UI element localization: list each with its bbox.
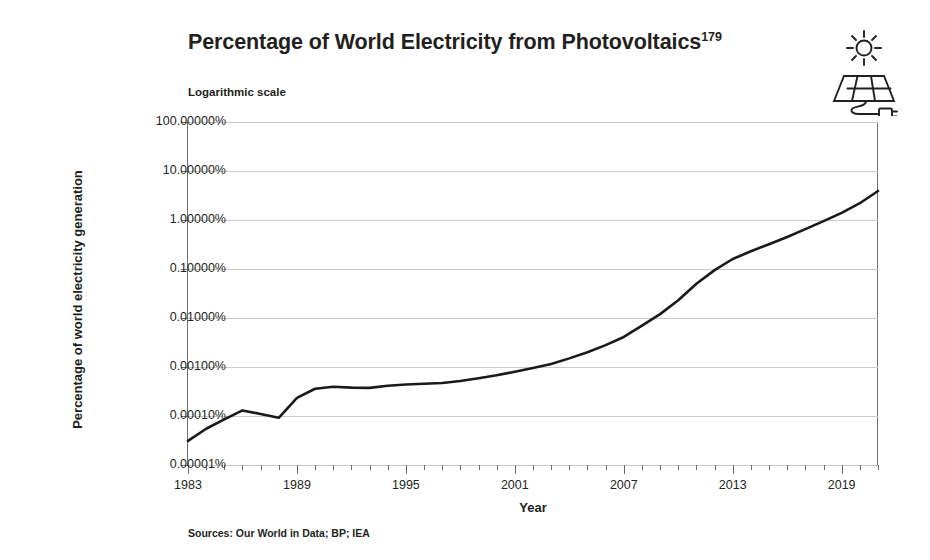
y-axis-tick-label: 0.00100%	[96, 359, 226, 373]
x-axis-tick-minor	[824, 465, 825, 470]
chart-subtitle: Logarithmic scale	[188, 86, 286, 98]
y-axis-tick-label: 0.00001%	[96, 457, 226, 471]
x-axis-tick-label: 1995	[392, 478, 420, 492]
x-axis-tick-label: 2001	[501, 478, 529, 492]
title-footnote-superscript: 179	[701, 30, 722, 44]
x-axis-tick-minor	[460, 465, 461, 470]
x-axis-tick-major	[733, 465, 734, 474]
x-axis-tick-minor	[696, 465, 697, 470]
x-axis-tick-minor	[787, 465, 788, 470]
x-axis-tick-label: 1989	[283, 478, 311, 492]
solar-panel-sun-icon	[818, 28, 910, 116]
x-axis-tick-minor	[551, 465, 552, 470]
x-axis-tick-label: 2013	[719, 478, 747, 492]
y-axis-tick-label: 0.01000%	[96, 310, 226, 324]
x-axis-tick-label: 2019	[828, 478, 856, 492]
x-axis-tick-minor	[242, 465, 243, 470]
x-axis-tick-minor	[315, 465, 316, 470]
x-axis-tick-minor	[642, 465, 643, 470]
x-axis-tick-minor	[279, 465, 280, 470]
x-axis-tick-minor	[497, 465, 498, 470]
x-axis-tick-minor	[860, 465, 861, 470]
chart-title-text: Percentage of World Electricity from Pho…	[188, 30, 701, 54]
y-axis-tick-label: 0.00010%	[96, 408, 226, 422]
x-axis-tick-minor	[370, 465, 371, 470]
y-axis-tick-label: 10.00000%	[96, 163, 226, 177]
x-axis-tick-label: 1983	[174, 478, 202, 492]
x-axis-tick-major	[406, 465, 407, 474]
x-axis-tick-minor	[715, 465, 716, 470]
x-axis-tick-minor	[769, 465, 770, 470]
y-axis-tick-label: 0.10000%	[96, 261, 226, 275]
x-axis-tick-major	[297, 465, 298, 474]
x-axis-tick-minor	[333, 465, 334, 470]
x-axis-tick-minor	[660, 465, 661, 470]
x-axis-tick-major	[624, 465, 625, 474]
x-axis-tick-minor	[587, 465, 588, 470]
x-axis-tick-label: 2007	[610, 478, 638, 492]
chart-figure: Percentage of World Electricity from Pho…	[0, 0, 930, 560]
x-axis-tick-minor	[424, 465, 425, 470]
series-photovoltaics-share	[188, 122, 878, 465]
x-axis-tick-major	[515, 465, 516, 474]
y-axis-label: Percentage of world electricity generati…	[70, 130, 85, 470]
x-axis-tick-minor	[678, 465, 679, 470]
x-axis-tick-minor	[878, 465, 879, 470]
x-axis-tick-minor	[261, 465, 262, 470]
x-axis-tick-major	[842, 465, 843, 474]
x-axis-tick-minor	[388, 465, 389, 470]
y-axis-tick-label: 100.00000%	[96, 114, 226, 128]
sources-note: Sources: Our World in Data; BP; IEA	[188, 527, 370, 539]
x-axis-label: Year	[188, 500, 878, 515]
x-axis-tick-minor	[569, 465, 570, 470]
x-axis-tick-minor	[442, 465, 443, 470]
chart-title: Percentage of World Electricity from Pho…	[188, 30, 838, 55]
x-axis-tick-minor	[533, 465, 534, 470]
x-axis-tick-minor	[479, 465, 480, 470]
x-axis-tick-minor	[805, 465, 806, 470]
plot-area	[188, 122, 878, 465]
y-axis-tick-label: 1.00000%	[96, 212, 226, 226]
x-axis-tick-minor	[751, 465, 752, 470]
x-axis-tick-minor	[351, 465, 352, 470]
x-axis-tick-minor	[606, 465, 607, 470]
